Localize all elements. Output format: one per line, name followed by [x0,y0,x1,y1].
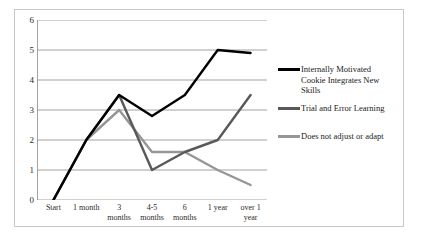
legend-item[interactable]: Trial and Error Learning [278,103,400,114]
legend-item[interactable]: Internally MotivatedCookie Integrates Ne… [278,64,400,96]
x-axis: Start1 month3months4-5months6months1 yea… [37,203,267,231]
line-chart: 6 5 4 3 2 1 0 Start1 month3months4-5mont… [0,0,424,243]
x-tick-label: 3months [103,203,136,231]
x-tick-label: 6months [168,203,201,231]
legend-item[interactable]: Does not adjust or adapt [278,131,400,142]
y-tick-label: 2 [20,136,34,145]
legend-swatch-icon [278,68,300,71]
series-line [53,50,250,200]
legend-item-label: Internally MotivatedCookie Integrates Ne… [301,64,379,96]
legend-swatch-icon [278,107,300,110]
y-tick-label: 4 [20,76,34,85]
y-tick-label: 1 [20,166,34,175]
legend-swatch-icon [278,135,300,138]
y-tick-label: 5 [20,46,34,55]
x-tick-label: 1 year [201,203,234,231]
x-tick-label: 1 month [70,203,103,231]
y-tick-label: 0 [20,196,34,205]
y-tick-label: 6 [20,16,34,25]
plot-svg [37,20,267,200]
x-tick-label: over 1year [234,203,267,231]
y-axis: 6 5 4 3 2 1 0 [18,20,34,200]
series-group [53,50,250,200]
legend-item-label: Does not adjust or adapt [301,131,384,142]
y-tick-label: 3 [20,106,34,115]
legend: Internally MotivatedCookie Integrates Ne… [278,64,400,149]
x-tick-label: Start [37,203,70,231]
plot-area [37,20,267,200]
legend-item-label: Trial and Error Learning [301,103,384,114]
series-line [53,110,250,200]
x-tick-label: 4-5months [136,203,169,231]
gridlines [37,20,267,200]
